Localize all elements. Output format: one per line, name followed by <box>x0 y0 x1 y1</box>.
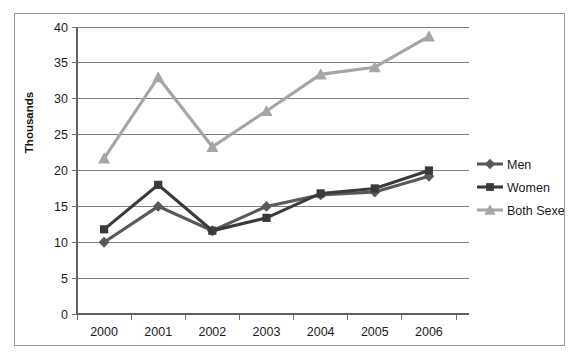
y-axis-tick-label: 40 <box>54 21 68 35</box>
x-axis-tick-label: 2005 <box>361 325 389 339</box>
y-axis-tick-label: 15 <box>54 200 68 214</box>
series-line <box>104 36 429 158</box>
legend-item-both-sexes[interactable]: Both Sexes <box>477 204 564 218</box>
y-axis-tick-label: 30 <box>54 92 68 106</box>
legend-item-women[interactable]: Women <box>477 181 550 195</box>
y-axis-tick-label: 5 <box>61 272 68 286</box>
series-women <box>100 166 433 234</box>
x-axis-tick-label: 2006 <box>415 325 443 339</box>
y-axis-tick-label: 25 <box>54 128 68 142</box>
data-point-marker <box>425 166 433 174</box>
legend-label: Men <box>507 158 531 172</box>
x-axis-tick-label: 2000 <box>90 325 118 339</box>
y-axis-title: Thousands <box>23 92 35 153</box>
y-axis-tick-label: 0 <box>61 308 68 322</box>
data-point-marker <box>486 183 494 191</box>
data-point-marker <box>208 227 216 235</box>
y-axis-ticks-group: 0510152025303540 <box>54 21 77 322</box>
legend-label: Women <box>507 181 550 195</box>
data-point-marker <box>485 159 495 169</box>
y-axis-tick-label: 20 <box>54 164 68 178</box>
y-axis-tick-label: 10 <box>54 236 68 250</box>
chart-legend: MenWomenBoth Sexes <box>477 158 564 218</box>
data-point-marker <box>100 225 108 233</box>
series-both-sexes <box>98 30 435 163</box>
x-axis-tick-label: 2001 <box>144 325 172 339</box>
x-axis-tick-label: 2002 <box>198 325 226 339</box>
data-point-marker <box>152 71 164 82</box>
legend-item-men[interactable]: Men <box>477 158 531 172</box>
x-axis-tick-label: 2004 <box>307 325 335 339</box>
data-point-marker <box>262 214 270 222</box>
y-axis-tick-label: 35 <box>54 56 68 70</box>
data-point-marker <box>154 181 162 189</box>
chart-frame: 0510152025303540 20002001200220032004200… <box>14 13 565 346</box>
x-axis-ticks-group: 2000200120022003200420052006 <box>77 314 456 339</box>
x-axis-tick-label: 2003 <box>253 325 281 339</box>
line-chart-plot: 0510152025303540 20002001200220032004200… <box>15 14 564 345</box>
series-men <box>99 171 435 248</box>
data-point-marker <box>317 189 325 197</box>
y-axis-title-group: Thousands <box>23 92 35 153</box>
legend-label: Both Sexes <box>507 204 564 218</box>
chart-container: 0510152025303540 20002001200220032004200… <box>0 0 579 361</box>
data-point-marker <box>371 184 379 192</box>
data-point-marker <box>423 30 435 41</box>
gridlines-group <box>77 27 469 314</box>
data-point-marker <box>261 201 272 212</box>
